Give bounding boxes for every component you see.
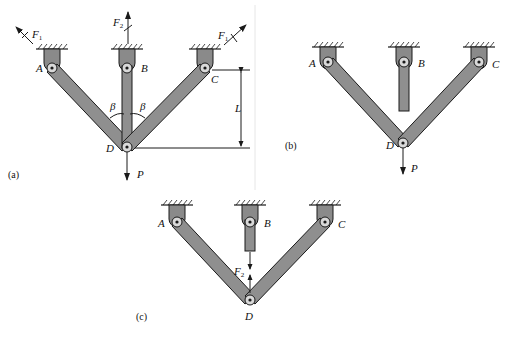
figure-b: P A B C D (b) — [285, 42, 500, 174]
bar-ad — [323, 58, 408, 147]
dim-l-label: L — [234, 102, 241, 114]
figure-a: β β F1 F2 F1 P L A B C D (a) — [8, 12, 250, 181]
label-c: C — [211, 73, 219, 85]
caption-a: (a) — [8, 169, 19, 181]
load-p-label: P — [410, 162, 418, 174]
bar-cd — [398, 58, 484, 147]
load-p-label: P — [136, 168, 144, 180]
caption-c: (c) — [136, 311, 147, 323]
pin-c — [320, 217, 330, 227]
label-d: D — [385, 139, 394, 151]
label-a: A — [35, 62, 43, 74]
pin-a — [323, 57, 333, 67]
label-a: A — [308, 57, 316, 69]
bar-ad — [172, 218, 255, 304]
pin-b — [399, 57, 409, 67]
pin-a — [172, 217, 182, 227]
force-f1-left-label: F1 — [31, 28, 43, 42]
label-c: C — [492, 58, 500, 70]
bar-cd — [245, 218, 330, 304]
figure-c: F2 A B C D (c) — [136, 200, 346, 323]
label-d: D — [105, 142, 114, 154]
bar-ad — [47, 64, 132, 151]
label-b: B — [264, 217, 271, 229]
bar-bd-detached — [399, 61, 409, 111]
pin-d — [398, 138, 408, 148]
beta-right-label: β — [139, 100, 146, 112]
statically-indeterminate-truss-diagram: β β F1 F2 F1 P L A B C D (a) — [0, 0, 510, 337]
force-f1-right-label: F1 — [217, 29, 229, 43]
beta-left-label: β — [109, 100, 116, 112]
pin-d — [245, 295, 255, 305]
label-b: B — [418, 57, 425, 69]
pin-a — [47, 63, 57, 73]
pin-b — [245, 217, 255, 227]
force-f2-label: F2 — [112, 16, 124, 30]
pin-d — [122, 142, 132, 152]
label-c: C — [338, 218, 346, 230]
pin-c — [474, 57, 484, 67]
label-a: A — [157, 217, 165, 229]
force-f2-label: F2 — [233, 265, 245, 279]
force-f1-left-cut — [22, 32, 28, 38]
pin-c — [200, 63, 210, 73]
bar-cd — [122, 64, 210, 151]
pin-b — [122, 63, 132, 73]
caption-b: (b) — [285, 140, 297, 152]
label-d: D — [244, 310, 253, 322]
label-b: B — [141, 62, 148, 74]
